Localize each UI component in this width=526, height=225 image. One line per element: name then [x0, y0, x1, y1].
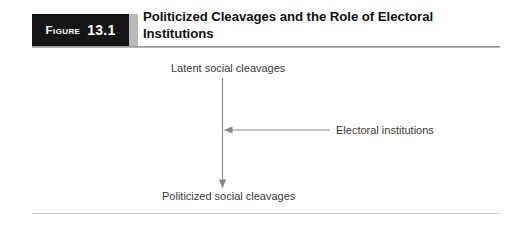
node-label-politicized-social-cleavages: Politicized social cleavages — [162, 190, 295, 202]
figure-diagram: Latent social cleavages Politicized soci… — [0, 48, 526, 208]
figure-number-badge: Figure 13.1 — [32, 14, 129, 46]
footer-divider-rule — [32, 213, 500, 214]
figure-number: 13.1 — [87, 22, 115, 38]
node-label-electoral-institutions: Electoral institutions — [336, 124, 434, 136]
figure-header: Figure 13.1 Politicized Cleavages and th… — [0, 0, 526, 48]
figure-label-word: Figure — [46, 24, 81, 36]
figure-badge-accent-strip — [129, 14, 138, 46]
node-label-latent-social-cleavages: Latent social cleavages — [171, 62, 285, 74]
arrow-latent-to-politicized — [219, 78, 226, 189]
figure-title: Politicized Cleavages and the Role of El… — [143, 9, 493, 42]
arrow-electoral-to-edge — [224, 126, 331, 133]
